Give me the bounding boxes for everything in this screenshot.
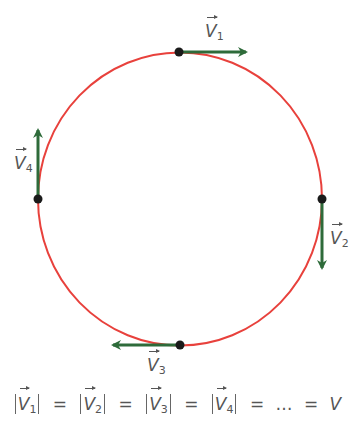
- vector-symbol: V: [205, 23, 217, 40]
- ellipsis: …: [276, 394, 293, 414]
- point-1: [175, 48, 184, 57]
- vector-symbol: V: [147, 357, 159, 374]
- magnitude-equation: V1 = V2 = V3 = V4 = … = V: [0, 394, 354, 416]
- label-v3: V3: [147, 357, 166, 376]
- circular-path: [38, 53, 322, 346]
- point-2: [318, 195, 327, 204]
- point-3: [176, 341, 185, 350]
- point-4: [34, 195, 43, 204]
- label-v4: V4: [14, 155, 33, 174]
- label-v1: V1: [205, 23, 224, 42]
- vector-symbol: V: [14, 155, 26, 172]
- circular-motion-diagram: [0, 0, 354, 385]
- speed-result: V: [330, 394, 342, 414]
- vector-symbol: V: [330, 230, 342, 247]
- label-v2: V2: [330, 230, 349, 249]
